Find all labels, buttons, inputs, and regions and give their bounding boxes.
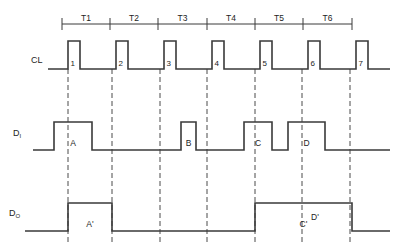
signal-name-labels: CLDIDO <box>9 55 43 219</box>
signal-label-sub-do: O <box>16 213 21 219</box>
period-label-t6: T6 <box>323 13 333 23</box>
wave-label-di-c: C <box>255 138 261 148</box>
signal-label-cl: CL <box>31 55 43 65</box>
signal-label-do: DO <box>9 208 21 219</box>
period-label-t2: T2 <box>129 13 139 23</box>
wave-label-di-d: D <box>303 138 309 148</box>
wave-label-do-cprime: C' <box>300 219 308 229</box>
wave-label-cl-1: 1 <box>71 59 76 68</box>
period-label-t5: T5 <box>274 13 284 23</box>
alignment-dashed-lines <box>68 69 350 242</box>
wave-label-cl-3: 3 <box>167 59 172 68</box>
wave-label-cl-2: 2 <box>119 59 124 68</box>
period-label-t1: T1 <box>81 13 91 23</box>
wave-label-cl-4: 4 <box>215 59 220 68</box>
wave-label-cl-6: 6 <box>311 59 316 68</box>
waveform-di <box>33 122 390 150</box>
wave-label-cl-7: 7 <box>359 59 364 68</box>
signal-label-sub-di: I <box>20 133 22 139</box>
period-label-t3: T3 <box>178 13 188 23</box>
wave-label-di-a: A <box>70 138 76 148</box>
wave-label-do-dprime: D' <box>311 212 319 222</box>
period-axis: T1T2T3T4T5T6 <box>62 13 352 30</box>
timing-diagram-svg: T1T2T3T4T5T6 CLDIDO 1234567ABCDA'C'D' <box>0 0 401 242</box>
period-label-t4: T4 <box>226 13 236 23</box>
timing-diagram-canvas: T1T2T3T4T5T6 CLDIDO 1234567ABCDA'C'D' <box>0 0 401 242</box>
wave-label-di-b: B <box>186 138 192 148</box>
signal-label-di: DI <box>13 128 22 139</box>
waveform-cl <box>48 41 390 69</box>
wave-label-cl-5: 5 <box>263 59 268 68</box>
wave-label-do-aprime: A' <box>86 219 94 229</box>
